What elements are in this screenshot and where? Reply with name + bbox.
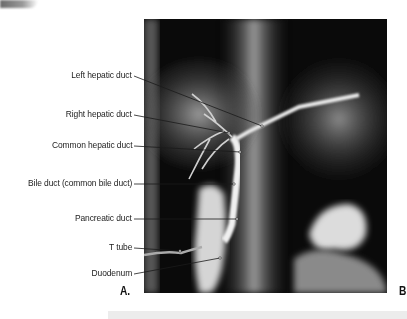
caption-bar [108,311,407,319]
page-corner-tab [0,0,38,8]
label-left-hepatic-duct: Left hepatic duct [72,70,132,81]
radiograph-graphic [144,19,387,293]
label-pancreatic-duct: Pancreatic duct [75,213,132,224]
panel-label-b: B [399,284,406,298]
panel-label-a: A. [120,284,130,298]
label-duodenum: Duodenum [91,268,132,279]
label-right-hepatic-duct: Right hepatic duct [66,109,132,120]
label-bile-duct: Bile duct (common bile duct) [28,178,132,189]
label-common-hepatic-duct: Common hepatic duct [52,140,132,151]
label-t-tube: T tube [109,242,132,253]
cholangiogram-radiograph [144,19,387,293]
